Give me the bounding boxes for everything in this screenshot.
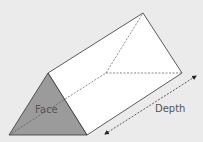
depth-label: Depth (155, 103, 185, 114)
face-label: Face (35, 104, 58, 115)
prism-diagram: Face Depth (0, 0, 203, 142)
prism-drawing (0, 0, 203, 142)
